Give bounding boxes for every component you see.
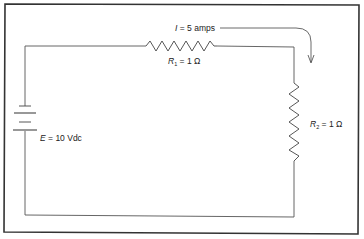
- source-equals: =: [48, 133, 53, 143]
- current-symbol: I: [175, 23, 177, 33]
- r1-equals: =: [180, 56, 185, 66]
- source-value: 10 Vdc: [55, 133, 81, 143]
- current-arrow-icon: [220, 28, 314, 63]
- source-label: E = 10 Vdc: [40, 134, 82, 143]
- battery-symbol: [13, 106, 37, 130]
- circuit-wires: [25, 46, 294, 217]
- current-value: 5 amps: [187, 23, 215, 33]
- resistor-r1-symbol: [146, 41, 217, 51]
- resistor-r2-symbol: [289, 83, 299, 161]
- r1-value: 1 Ω: [187, 56, 200, 66]
- r2-subscript: 2: [316, 124, 319, 130]
- r2-equals: =: [322, 119, 327, 129]
- current-label: I = 5 amps: [175, 24, 215, 33]
- r2-value: 1 Ω: [329, 119, 342, 129]
- outer-frame: [4, 4, 359, 234]
- current-equals: =: [180, 23, 185, 33]
- r1-subscript: 1: [174, 61, 177, 67]
- source-symbol: E: [40, 133, 46, 143]
- resistor-r1-label: R1 = 1 Ω: [168, 57, 200, 68]
- resistor-r2-label: R2 = 1 Ω: [310, 120, 342, 131]
